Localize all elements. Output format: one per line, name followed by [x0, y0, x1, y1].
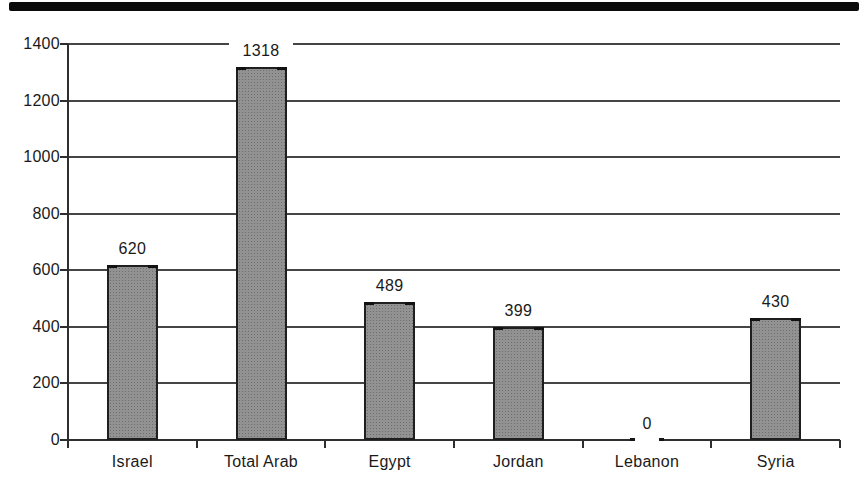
y-axis-tick-label: 800 — [0, 204, 60, 224]
x-axis-tick — [710, 440, 712, 448]
x-axis-category-label: Israel — [68, 452, 197, 472]
y-axis-tick-label: 1200 — [0, 91, 60, 111]
x-axis-category-label: Jordan — [454, 452, 583, 472]
zero-bar-baseline-gap — [634, 438, 660, 443]
x-axis-category-label: Egypt — [325, 452, 454, 472]
x-axis-tick — [453, 440, 455, 448]
x-axis-category-label: Lebanon — [583, 452, 712, 472]
y-axis-tick-label: 1400 — [0, 34, 60, 54]
x-axis-tick — [582, 440, 584, 448]
gridline — [68, 269, 840, 271]
gridline — [68, 326, 840, 328]
y-axis-tick-label: 0 — [0, 430, 60, 450]
bar-jordan — [493, 327, 544, 440]
x-axis-tick — [67, 440, 69, 448]
bar-total-arab — [236, 67, 287, 440]
gridline — [68, 213, 840, 215]
gridline — [68, 382, 840, 384]
bar-syria — [750, 318, 801, 440]
bar-value-label: 489 — [358, 276, 422, 296]
x-axis-category-label: Total Arab — [197, 452, 326, 472]
bar-value-label: 1318 — [229, 41, 293, 61]
x-axis-tick — [324, 440, 326, 448]
bar-value-label: 430 — [744, 292, 808, 312]
zero-bar-right-nub — [659, 438, 664, 441]
x-axis-category-label: Syria — [711, 452, 840, 472]
bar-value-label: 620 — [100, 239, 164, 259]
gridline — [68, 100, 840, 102]
bar-chart-figure: 0200400600800100012001400620Israel1318To… — [0, 0, 861, 501]
y-axis-tick-label: 600 — [0, 260, 60, 280]
x-axis-tick — [839, 440, 841, 448]
scanned-bar-chart-page: 0200400600800100012001400620Israel1318To… — [0, 0, 861, 501]
bar-value-label: 0 — [615, 414, 679, 434]
y-axis-line — [67, 44, 69, 442]
y-axis-tick-label: 400 — [0, 317, 60, 337]
y-axis-tick-label: 200 — [0, 373, 60, 393]
bar-egypt — [364, 302, 415, 440]
bar-israel — [107, 265, 158, 440]
gridline — [68, 43, 840, 45]
x-axis-tick — [196, 440, 198, 448]
gridline — [68, 156, 840, 158]
zero-bar-left-nub — [630, 438, 635, 441]
y-axis-tick-label: 1000 — [0, 147, 60, 167]
bar-value-label: 399 — [486, 301, 550, 321]
